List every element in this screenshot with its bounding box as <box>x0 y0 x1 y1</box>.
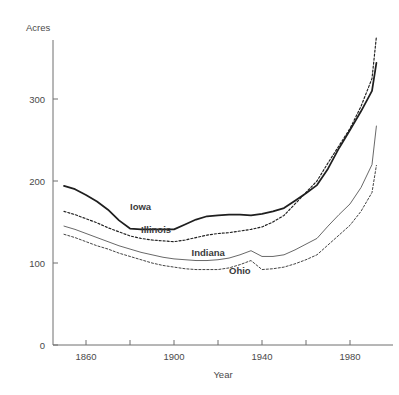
y-tick-label: 300 <box>29 94 45 105</box>
x-tick-label: 1860 <box>75 351 96 362</box>
y-tick-label: 100 <box>29 258 45 269</box>
series-line-ohio <box>64 165 376 269</box>
series-line-illinois <box>64 37 376 242</box>
x-axis-title: Year <box>213 369 232 380</box>
x-tick-label: 1940 <box>251 351 272 362</box>
series-line-indiana <box>64 126 376 260</box>
series-line-iowa <box>64 63 376 229</box>
x-tick-label: 1900 <box>163 351 184 362</box>
y-tick-label: 200 <box>29 176 45 187</box>
y-axis-title: Acres <box>26 22 51 33</box>
chart-container: 01002003001860190019401980AcresYear Iowa… <box>0 0 399 395</box>
y-tick-label: 0 <box>40 340 45 351</box>
line-chart: 01002003001860190019401980AcresYear <box>0 0 399 395</box>
x-tick-label: 1980 <box>339 351 360 362</box>
